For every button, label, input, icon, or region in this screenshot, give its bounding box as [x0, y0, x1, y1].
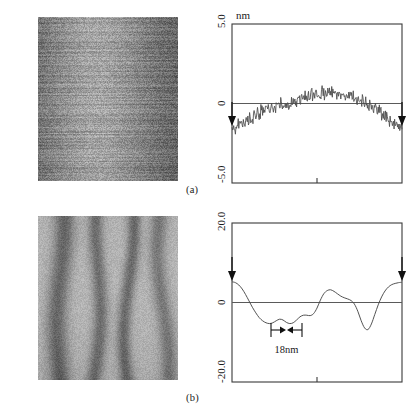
- afm-image-smooth-surface: [38, 17, 178, 181]
- afm-image-grooved-surface: [38, 216, 178, 380]
- profile-trace: [232, 86, 402, 135]
- y-tick-label-zero: 0: [215, 299, 227, 305]
- y-axis-unit-label: nm: [236, 9, 251, 21]
- profile-trace: [232, 282, 402, 330]
- right-edge-arrow-marker: [398, 102, 406, 126]
- subfigure-caption-b: (b): [186, 392, 199, 403]
- subfigure-caption-a: (a): [186, 184, 198, 195]
- width-measure-label: 18nm: [275, 344, 299, 355]
- y-tick-label-bottom: -5.0: [215, 165, 227, 183]
- line-profile-chart-a: nm 5.0 0 -5.0: [214, 6, 410, 196]
- width-measure-18nm: 18nm: [271, 323, 302, 355]
- figure-container: nm 5.0 0 -5.0: [0, 0, 415, 417]
- right-edge-arrow-marker: [398, 257, 406, 281]
- y-tick-label-top: 5.0: [215, 14, 227, 28]
- y-tick-label-bottom: -20.0: [215, 360, 227, 383]
- y-tick-label-top: 20.0: [215, 211, 227, 231]
- left-edge-arrow-marker: [228, 257, 236, 281]
- line-profile-chart-b: 20.0 0 -20.0: [214, 205, 410, 395]
- left-edge-arrow-marker: [228, 102, 236, 126]
- y-tick-label-zero: 0: [215, 100, 227, 106]
